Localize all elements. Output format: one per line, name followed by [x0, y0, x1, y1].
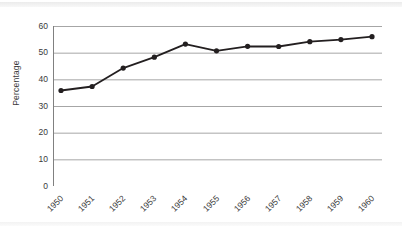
y-tick-label: 50: [30, 48, 48, 57]
data-point: [369, 34, 374, 39]
data-point: [245, 44, 250, 49]
data-point: [214, 48, 219, 53]
x-tick-label: 1954: [170, 194, 189, 213]
x-axis-tick-labels: 1950195119521953195419551956195719581959…: [53, 188, 382, 233]
x-tick-label: 1955: [201, 194, 220, 213]
data-point: [183, 42, 188, 47]
data-point: [90, 84, 95, 89]
data-point: [307, 39, 312, 44]
scan-band-top: [0, 2, 402, 7]
data-point: [121, 66, 126, 71]
x-tick-label: 1952: [108, 194, 127, 213]
chart-figure: Percentage 0102030405060 195019511952195…: [0, 0, 402, 233]
line-chart-svg: [53, 26, 382, 186]
x-tick-label: 1958: [294, 194, 313, 213]
y-tick-label: 30: [30, 102, 48, 111]
x-tick-label: 1951: [77, 194, 96, 213]
y-tick-label: 60: [30, 22, 48, 31]
x-tick-label: 1953: [139, 194, 158, 213]
y-tick-label: 20: [30, 128, 48, 137]
x-tick-label: 1959: [325, 194, 344, 213]
x-tick-label: 1960: [357, 194, 376, 213]
y-axis-tick-labels: 0102030405060: [28, 26, 48, 186]
data-point: [338, 37, 343, 42]
y-tick-label: 40: [30, 75, 48, 84]
data-point: [152, 55, 157, 60]
y-axis-title: Percentage: [11, 43, 21, 123]
x-tick-label: 1957: [263, 194, 282, 213]
series-markers: [58, 34, 374, 93]
y-tick-label: 10: [30, 155, 48, 164]
data-point: [276, 44, 281, 49]
plot-area: [53, 26, 382, 186]
x-tick-label: 1956: [232, 194, 251, 213]
data-point: [58, 88, 63, 93]
y-tick-label: 0: [30, 182, 48, 191]
series-line: [61, 37, 372, 91]
x-tick-label: 1950: [46, 194, 65, 213]
